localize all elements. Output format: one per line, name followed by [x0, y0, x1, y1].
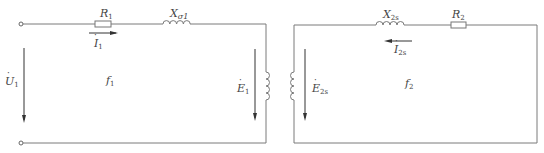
phasor-dot: ·	[314, 75, 317, 85]
arrowhead	[303, 113, 307, 121]
label-r1: R1	[99, 7, 113, 21]
secondary-circuit: X2s R2 I2s · E2s · f2	[291, 8, 538, 143]
terminal-bottom	[19, 141, 23, 145]
arrowhead	[384, 39, 392, 43]
phasor-dot: ·	[395, 36, 398, 46]
inductor-x2s	[376, 22, 404, 25]
label-r2: R2	[451, 8, 465, 22]
circuit-diagram: R1 Xσ1 I1 · U1 · f1 E1 · X2s R2 I2s ·	[0, 0, 544, 153]
phasor-dot: ·	[94, 30, 97, 40]
resistor-r1	[95, 21, 111, 27]
inductor-x-sigma1	[163, 21, 190, 24]
phasor-dot: ·	[239, 75, 242, 85]
phasor-dot: ·	[7, 68, 10, 78]
label-x2s: X2s	[382, 8, 399, 22]
arrowhead	[253, 113, 257, 121]
arrowhead	[110, 31, 118, 35]
primary-circuit: R1 Xσ1 I1 · U1 · f1 E1 ·	[5, 7, 270, 145]
terminal-top	[19, 22, 23, 26]
label-f2: f2	[404, 77, 414, 91]
label-f1: f1	[105, 74, 115, 88]
primary-winding-coil	[266, 72, 270, 100]
secondary-winding-coil	[291, 72, 295, 100]
arrowhead	[22, 115, 26, 123]
label-x-sigma1: Xσ1	[169, 7, 188, 21]
resistor-r2	[451, 22, 466, 28]
